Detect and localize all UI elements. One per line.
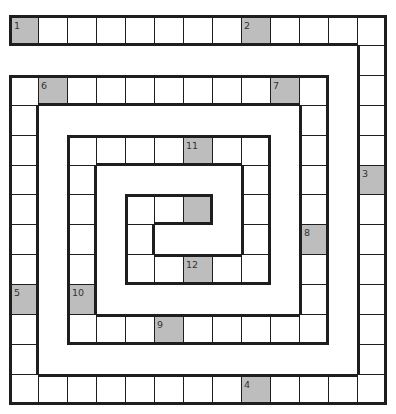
grid-cell[interactable] (241, 254, 271, 285)
grid-cell[interactable] (9, 314, 39, 345)
grid-cell[interactable] (125, 254, 155, 285)
grid-cell[interactable] (38, 374, 68, 405)
numbered-cell[interactable]: 12 (183, 254, 213, 285)
grid-cell[interactable] (9, 374, 39, 405)
numbered-cell[interactable]: 10 (67, 284, 97, 315)
grid-cell[interactable] (154, 194, 184, 225)
grid-cell[interactable] (299, 105, 329, 136)
grid-cell[interactable] (9, 135, 39, 166)
grid-cell[interactable] (67, 254, 97, 285)
grid-cell[interactable] (241, 314, 271, 345)
grid-cell[interactable] (96, 374, 126, 405)
grid-cell[interactable] (241, 224, 271, 255)
numbered-cell[interactable]: 4 (241, 374, 271, 405)
grid-cell[interactable] (212, 314, 242, 345)
grid-cell[interactable] (9, 194, 39, 225)
grid-cell[interactable] (241, 165, 271, 195)
grid-cell[interactable] (357, 224, 387, 255)
grid-cell[interactable] (357, 105, 387, 136)
grid-cell[interactable] (299, 284, 329, 315)
grid-cell[interactable] (328, 374, 358, 405)
grid-cell[interactable] (357, 284, 387, 315)
grid-cell[interactable] (67, 75, 97, 106)
grid-cell[interactable] (212, 15, 242, 46)
grid-cell[interactable] (9, 105, 39, 136)
grid-cell[interactable] (67, 135, 97, 166)
grid-cell[interactable] (241, 194, 271, 225)
numbered-cell[interactable] (183, 194, 213, 225)
grid-cell[interactable] (270, 314, 300, 345)
grid-cell[interactable] (241, 75, 271, 106)
grid-cell[interactable] (357, 254, 387, 285)
grid-cell[interactable] (183, 75, 213, 106)
grid-cell[interactable] (125, 374, 155, 405)
grid-cell[interactable] (357, 374, 387, 405)
grid-cell[interactable] (125, 314, 155, 345)
grid-cell[interactable] (270, 15, 300, 46)
numbered-cell[interactable]: 3 (357, 165, 387, 195)
clue-number: 12 (186, 260, 198, 270)
grid-cell[interactable] (154, 135, 184, 166)
grid-cell[interactable] (9, 165, 39, 195)
grid-cell[interactable] (357, 314, 387, 345)
grid-cell[interactable] (9, 75, 39, 106)
grid-cell[interactable] (212, 374, 242, 405)
grid-cell[interactable] (38, 15, 68, 46)
grid-cell[interactable] (357, 15, 387, 46)
numbered-cell[interactable]: 11 (183, 135, 213, 166)
numbered-cell[interactable]: 7 (270, 75, 300, 106)
grid-cell[interactable] (154, 75, 184, 106)
grid-cell[interactable] (67, 224, 97, 255)
grid-cell[interactable] (125, 15, 155, 46)
grid-cell[interactable] (299, 75, 329, 106)
grid-cell[interactable] (299, 165, 329, 195)
clue-number: 3 (362, 169, 368, 179)
grid-cell[interactable] (299, 194, 329, 225)
grid-cell[interactable] (67, 194, 97, 225)
numbered-cell[interactable]: 5 (9, 284, 39, 315)
grid-cell[interactable] (357, 194, 387, 225)
grid-cell[interactable] (357, 45, 387, 76)
grid-cell[interactable] (96, 314, 126, 345)
grid-cell[interactable] (67, 314, 97, 345)
grid-cell[interactable] (357, 75, 387, 106)
grid-cell[interactable] (67, 165, 97, 195)
grid-cell[interactable] (9, 224, 39, 255)
grid-cell[interactable] (299, 314, 329, 345)
clue-number: 6 (41, 81, 47, 91)
grid-cell[interactable] (183, 374, 213, 405)
grid-cell[interactable] (67, 374, 97, 405)
grid-cell[interactable] (96, 135, 126, 166)
grid-cell[interactable] (357, 135, 387, 166)
grid-cell[interactable] (328, 15, 358, 46)
numbered-cell[interactable]: 1 (9, 15, 39, 46)
grid-cell[interactable] (125, 75, 155, 106)
grid-cell[interactable] (96, 15, 126, 46)
grid-cell[interactable] (299, 15, 329, 46)
grid-cell[interactable] (183, 314, 213, 345)
grid-cell[interactable] (299, 254, 329, 285)
grid-cell[interactable] (154, 15, 184, 46)
grid-cell[interactable] (183, 15, 213, 46)
numbered-cell[interactable]: 9 (154, 314, 184, 345)
grid-cell[interactable] (299, 374, 329, 405)
grid-cell[interactable] (67, 15, 97, 46)
grid-cell[interactable] (96, 75, 126, 106)
numbered-cell[interactable]: 8 (299, 224, 329, 255)
grid-cell[interactable] (212, 135, 242, 166)
grid-cell[interactable] (212, 75, 242, 106)
numbered-cell[interactable]: 2 (241, 15, 271, 46)
grid-cell[interactable] (241, 135, 271, 166)
grid-cell[interactable] (9, 254, 39, 285)
grid-cell[interactable] (270, 374, 300, 405)
numbered-cell[interactable]: 6 (38, 75, 68, 106)
grid-cell[interactable] (125, 194, 155, 225)
grid-cell[interactable] (9, 344, 39, 375)
grid-cell[interactable] (125, 224, 155, 255)
grid-cell[interactable] (125, 135, 155, 166)
grid-cell[interactable] (299, 135, 329, 166)
grid-cell[interactable] (357, 344, 387, 375)
grid-cell[interactable] (154, 374, 184, 405)
grid-cell[interactable] (154, 254, 184, 285)
grid-cell[interactable] (212, 254, 242, 285)
